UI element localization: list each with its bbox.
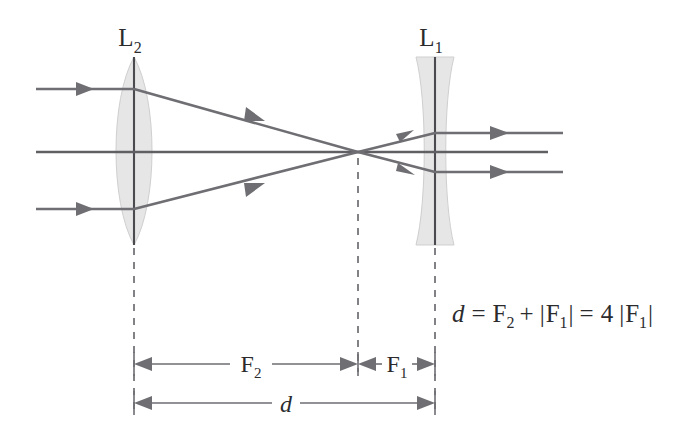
equation-plus: + (520, 300, 534, 327)
converging-ray-lower (134, 152, 358, 209)
lens-l1-label-sub: 1 (435, 39, 443, 56)
output-ray-top (435, 126, 563, 140)
dim-label-f2-main: F (241, 351, 254, 377)
equation-f1-main: F (546, 300, 560, 327)
optics-diagram: L2 L1 d=F2+|F1|=4|F1| F2 (0, 0, 688, 441)
equation-bar-open: | (540, 300, 545, 327)
dimension-row-separation: d (134, 391, 435, 417)
lens-l2-label-main: L (118, 24, 133, 51)
converging-ray-lower-segment (134, 152, 358, 209)
diverging-ray-lower (358, 152, 435, 175)
arrowhead-icon (417, 357, 435, 371)
diverging-ray-upper (358, 130, 435, 152)
equation-bar-close-2: | (648, 300, 653, 327)
lens-l2-label-sub: 2 (134, 39, 142, 56)
equation-bar-open-2: | (619, 300, 624, 327)
arrowhead-icon (244, 107, 265, 121)
dim-label-d: d (280, 391, 293, 417)
equation-f-main: F (493, 300, 507, 327)
equation-equals-1: = (472, 300, 486, 327)
arrowhead-icon (134, 396, 152, 410)
dim-label-f1: F1 (387, 351, 408, 381)
arrowhead-icon (490, 165, 509, 179)
lens-l1-label: L1 (419, 24, 442, 56)
lens-l2-label: L2 (118, 24, 141, 56)
equation-bar-close: | (569, 300, 574, 327)
arrowhead-icon (490, 126, 509, 140)
equation-f1-sub: 1 (560, 314, 568, 331)
converging-ray-upper (134, 89, 358, 152)
input-ray-top (36, 82, 134, 96)
arrowhead-icon (358, 357, 376, 371)
lens-l1-label-main: L (419, 24, 434, 51)
arrowhead-icon (417, 396, 435, 410)
equation-f-sub2: 2 (507, 314, 515, 331)
ray-diagram-canvas: L2 L1 d=F2+|F1|=4|F1| F2 (0, 0, 688, 441)
arrowhead-icon (76, 82, 94, 96)
dimension-row-focal-lengths: F2 F1 (134, 351, 435, 381)
diverging-ray-upper-segment (358, 133, 435, 152)
dim-label-f1-sub: 1 (400, 365, 408, 381)
equation-f1b-sub: 1 (639, 314, 647, 331)
arrowhead-icon (76, 202, 94, 216)
equation-text: d=F2+|F1|=4|F1| (452, 300, 653, 331)
dim-label-f2-sub: 2 (254, 365, 262, 381)
equation-f1b-main: F (625, 300, 639, 327)
dim-label-f1-main: F (387, 351, 400, 377)
output-ray-bottom (435, 165, 563, 179)
arrowhead-icon (244, 183, 265, 197)
equation-equals-2: = (580, 300, 594, 327)
equation-d: d (452, 300, 465, 327)
arrowhead-icon (134, 357, 152, 371)
arrowhead-icon (340, 357, 358, 371)
equation-four: 4 (601, 300, 614, 327)
dim-label-f2: F2 (241, 351, 262, 381)
input-ray-bottom (36, 202, 134, 216)
